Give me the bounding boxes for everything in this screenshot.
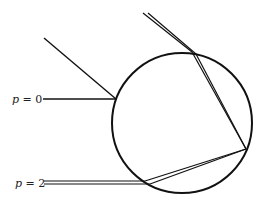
ray-p2-reflected-b xyxy=(196,54,246,149)
label-p0: p = 0 xyxy=(12,93,42,106)
ray-diagram: p = 0 p = 2 xyxy=(0,0,266,205)
ray-p2-internal-a xyxy=(145,149,246,181)
ray-p0-reflected xyxy=(44,38,116,99)
label-p2: p = 2 xyxy=(15,177,45,190)
ray-p2-exit-a xyxy=(143,13,192,52)
ray-p2-exit-b xyxy=(148,13,196,54)
ray-p2-internal-b xyxy=(150,149,246,184)
ray-p0 xyxy=(43,38,116,99)
